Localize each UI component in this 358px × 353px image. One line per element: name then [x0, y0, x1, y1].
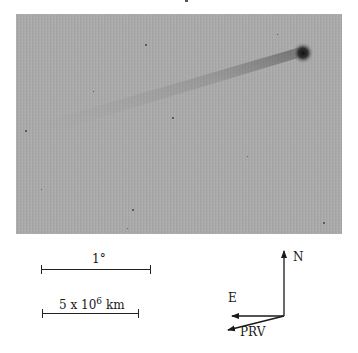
scale-label-distance: 5 x 106 km	[59, 296, 125, 312]
scale-bar-distance	[42, 313, 139, 314]
star	[172, 117, 174, 119]
star	[323, 222, 325, 224]
scale-label-unit: km	[106, 298, 125, 312]
marker-dot	[185, 0, 188, 2]
star	[145, 44, 147, 46]
star	[25, 130, 27, 132]
star	[277, 34, 278, 35]
comet-tail	[16, 14, 256, 74]
star	[247, 156, 248, 157]
comet-image	[16, 14, 342, 234]
star	[132, 209, 134, 211]
compass-arrows	[210, 245, 290, 335]
scale-label-base: 5 x 10	[59, 298, 96, 312]
compass-east-label: E	[228, 291, 237, 305]
star	[127, 228, 128, 229]
compass-north-label: N	[293, 250, 304, 264]
scale-label-degree: 1°	[92, 252, 106, 266]
compass-prv-label: PRV	[240, 325, 265, 339]
scale-bar-degree	[41, 269, 151, 270]
scale-label-exponent: 6	[96, 296, 102, 306]
star	[41, 189, 42, 190]
star	[93, 91, 94, 92]
